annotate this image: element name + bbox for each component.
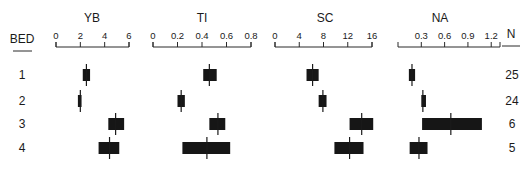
bed-label-3: 3 bbox=[19, 117, 26, 131]
bed-label-1: 1 bbox=[19, 68, 26, 82]
tick-label-yb: 4 bbox=[102, 30, 107, 41]
bed-label-2: 2 bbox=[19, 94, 26, 108]
tick-label-na: 1.2 bbox=[485, 30, 498, 41]
tick-label-yb: 6 bbox=[126, 30, 131, 41]
box-yb-bed-2 bbox=[78, 95, 82, 107]
panel-title-yb: YB bbox=[84, 11, 100, 25]
boxes-group bbox=[78, 64, 482, 159]
tick-label-na: 0.3 bbox=[415, 30, 428, 41]
axes-group: 024600.20.40.60.804812160.30.60.91.2 bbox=[53, 30, 500, 47]
tick-label-na: 0.6 bbox=[438, 30, 451, 41]
tick-label-ti: 0.2 bbox=[171, 30, 184, 41]
box-na-bed-3 bbox=[422, 118, 482, 130]
box-plot-figure: BED N 1 2 3 4 25 24 6 5 YB TI SC NA 0246… bbox=[0, 0, 528, 169]
box-sc-bed-4 bbox=[334, 142, 363, 154]
panel-title-sc: SC bbox=[317, 11, 334, 25]
n-value-3: 6 bbox=[509, 117, 516, 131]
tick-label-sc: 16 bbox=[367, 30, 378, 41]
chart-canvas: BED N 1 2 3 4 25 24 6 5 YB TI SC NA 0246… bbox=[0, 0, 528, 169]
tick-label-ti: 0.6 bbox=[220, 30, 233, 41]
tick-label-sc: 4 bbox=[297, 30, 302, 41]
tick-label-ti: 0 bbox=[150, 30, 155, 41]
box-ti-bed-1 bbox=[203, 69, 216, 81]
n-value-4: 5 bbox=[509, 141, 516, 155]
box-yb-bed-3 bbox=[108, 118, 124, 130]
n-value-2: 24 bbox=[505, 94, 519, 108]
box-na-bed-2 bbox=[421, 95, 426, 107]
tick-label-ti: 0.8 bbox=[244, 30, 257, 41]
bed-label-4: 4 bbox=[19, 141, 26, 155]
box-ti-bed-4 bbox=[182, 142, 230, 154]
panel-title-ti: TI bbox=[197, 11, 208, 25]
n-value-1: 25 bbox=[505, 68, 519, 82]
tick-label-na: 0.9 bbox=[461, 30, 474, 41]
panel-title-na: NA bbox=[432, 11, 449, 25]
bed-header: BED bbox=[10, 32, 35, 46]
n-header: N bbox=[507, 27, 516, 41]
tick-label-yb: 0 bbox=[53, 30, 58, 41]
tick-label-ti: 0.4 bbox=[195, 30, 208, 41]
tick-label-sc: 12 bbox=[342, 30, 353, 41]
tick-label-sc: 8 bbox=[321, 30, 326, 41]
tick-label-sc: 0 bbox=[272, 30, 277, 41]
box-yb-bed-4 bbox=[99, 142, 120, 154]
tick-label-yb: 2 bbox=[78, 30, 83, 41]
box-ti-bed-3 bbox=[209, 118, 225, 130]
